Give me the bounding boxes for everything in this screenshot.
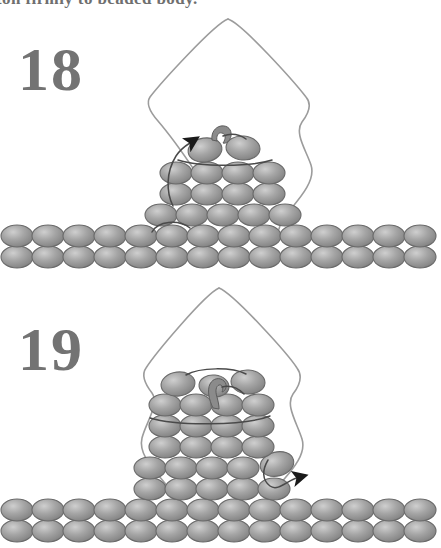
bead-row-base-upper-19: [1, 499, 436, 521]
bead-row-6-19: [134, 478, 290, 500]
step-19-diagram: [0, 274, 441, 548]
bead-row-base-upper-18: [1, 225, 436, 247]
bead-row-base-lower-18: [1, 246, 436, 268]
bead-row-3-18: [160, 183, 285, 205]
bead-row-top-18: [186, 135, 261, 165]
bead-row-3-19: [149, 415, 274, 437]
step-18-diagram: [0, 0, 441, 274]
beadwork-instruction-page: ton firmly to beaded body. 18 19: [0, 0, 441, 548]
bead-row-base-lower-19: [1, 520, 436, 542]
bead-row-4-19: [149, 436, 274, 458]
